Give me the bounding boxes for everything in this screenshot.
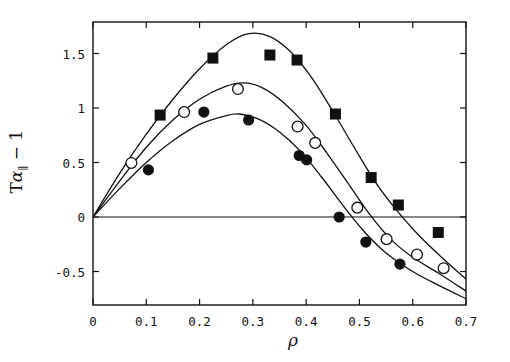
data-point-filled-square xyxy=(207,53,218,64)
data-point-open-circle xyxy=(438,263,449,274)
x-tick-label: 0.4 xyxy=(295,314,318,329)
data-point-filled-circle xyxy=(143,164,154,175)
data-layer xyxy=(93,33,466,299)
y-tick-label: 0.5 xyxy=(30,155,85,170)
data-point-open-circle xyxy=(233,84,244,95)
y-tick-label: -0.5 xyxy=(30,264,85,279)
data-point-filled-square xyxy=(366,172,377,183)
x-axis-label: ρ xyxy=(0,330,510,350)
data-point-open-circle xyxy=(179,107,190,118)
fit-curve-open-circle xyxy=(93,83,466,291)
y-tick-label: 0 xyxy=(30,210,85,225)
data-point-filled-circle xyxy=(198,106,209,117)
data-point-open-circle xyxy=(352,202,363,213)
data-point-filled-square xyxy=(330,108,341,119)
data-point-filled-circle xyxy=(334,211,345,222)
data-point-filled-circle xyxy=(360,236,371,247)
data-point-filled-circle xyxy=(243,114,254,125)
y-axis-label-text: Tα∥ − 1 xyxy=(6,130,26,194)
x-tick-label: 0.2 xyxy=(188,314,211,329)
plot-frame xyxy=(93,22,466,305)
data-point-open-circle xyxy=(412,249,423,260)
data-point-filled-square xyxy=(393,200,404,211)
data-point-open-circle xyxy=(126,158,137,169)
fit-curve-filled-circle xyxy=(93,114,466,299)
x-tick-label: 0.5 xyxy=(348,314,371,329)
y-axis-label: Tα∥ − 1 xyxy=(6,92,29,232)
x-axis-label-text: ρ xyxy=(288,330,298,350)
data-point-open-circle xyxy=(292,121,303,132)
data-point-open-circle xyxy=(381,234,392,245)
x-tick-label: 0.1 xyxy=(135,314,158,329)
data-point-open-circle xyxy=(310,137,321,148)
plot-figure: 00.10.20.30.40.50.60.71.510.50-0.5 xyxy=(0,0,510,362)
data-point-filled-circle xyxy=(301,154,312,165)
data-point-filled-square xyxy=(292,55,303,66)
x-tick-label: 0.3 xyxy=(242,314,265,329)
data-point-filled-square xyxy=(264,50,275,61)
y-tick-label: 1.5 xyxy=(30,46,85,61)
x-tick-label: 0 xyxy=(89,314,97,329)
y-tick-label: 1 xyxy=(30,101,85,116)
fit-curve-filled-square xyxy=(93,33,466,279)
data-point-filled-square xyxy=(433,227,444,238)
data-point-filled-circle xyxy=(394,258,405,269)
data-point-filled-square xyxy=(155,110,166,121)
x-tick-label: 0.6 xyxy=(401,314,424,329)
x-tick-label: 0.7 xyxy=(455,314,478,329)
